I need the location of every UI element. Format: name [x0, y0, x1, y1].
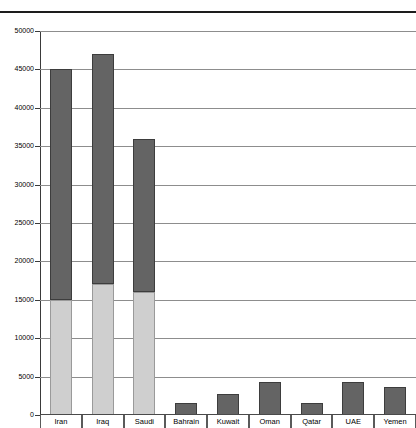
y-axis-tick-label: 0 [30, 411, 34, 418]
bar-segment-upper [92, 54, 114, 284]
bar-segment-upper [384, 387, 406, 415]
bar-uae[interactable] [342, 382, 364, 415]
y-axis-tick-label: 20000 [15, 257, 34, 264]
category-label-bahrain: Bahrain [165, 415, 207, 428]
category-label-qatar: Qatar [291, 415, 333, 428]
y-axis-tick-label: 5000 [18, 373, 34, 380]
category-axis-labels: IranIraqSaudiBahrainKuwaitOmanQatarUAEYe… [40, 415, 416, 428]
chart-page: 5000045000400003500030000250002000015000… [0, 0, 416, 428]
y-axis-tick-label: 10000 [15, 334, 34, 341]
bar-segment-upper [342, 382, 364, 415]
category-label-saudi: Saudi [124, 415, 166, 428]
bar-iran[interactable] [50, 69, 72, 415]
y-axis-tick-label: 40000 [15, 104, 34, 111]
category-label-yemen: Yemen [374, 415, 416, 428]
top-divider-rule [0, 11, 416, 13]
bar-segment-lower [50, 300, 72, 415]
y-axis-tick-label: 15000 [15, 296, 34, 303]
axis-tick [35, 300, 40, 301]
bar-saudi[interactable] [133, 139, 155, 415]
y-axis-tick-label: 35000 [15, 142, 34, 149]
bar-segment-upper [217, 394, 239, 415]
bar-segment-lower [133, 292, 155, 415]
plot-area [40, 31, 416, 415]
axis-tick [35, 223, 40, 224]
axis-tick [35, 31, 40, 32]
bar-iraq[interactable] [92, 54, 114, 415]
bar-kuwait[interactable] [217, 394, 239, 415]
axis-tick [35, 261, 40, 262]
category-label-iran: Iran [40, 415, 82, 428]
axis-tick [35, 377, 40, 378]
axis-tick [35, 338, 40, 339]
bar-oman[interactable] [259, 382, 281, 415]
bar-segment-upper [133, 139, 155, 293]
axis-tick [35, 146, 40, 147]
bar-segment-upper [50, 69, 72, 299]
y-axis-tick-label: 45000 [15, 65, 34, 72]
category-label-oman: Oman [249, 415, 291, 428]
category-label-kuwait: Kuwait [207, 415, 249, 428]
category-label-uae: UAE [332, 415, 374, 428]
y-axis-tick-label: 25000 [15, 219, 34, 226]
y-axis-tick-label: 50000 [15, 27, 34, 34]
axis-tick [35, 69, 40, 70]
bar-segment-upper [259, 382, 281, 415]
bar-segment-lower [92, 284, 114, 415]
axis-tick [35, 108, 40, 109]
category-label-iraq: Iraq [82, 415, 124, 428]
bar-yemen[interactable] [384, 387, 406, 415]
gridline [40, 31, 416, 32]
axis-tick [35, 185, 40, 186]
y-axis-tick-label: 30000 [15, 181, 34, 188]
